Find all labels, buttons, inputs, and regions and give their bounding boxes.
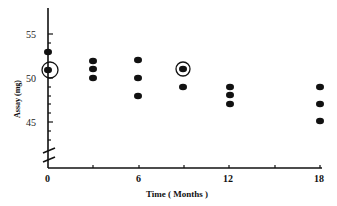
point-12-48 [226, 92, 234, 99]
scatter-chart: 55 50 45 0 6 12 18 Time ( Months ) Assay… [0, 0, 337, 206]
point-18-49 [316, 84, 324, 91]
y-axis-title: Assay (mg) [13, 80, 22, 118]
point-18-45 [316, 118, 324, 125]
x-tick-label-0: 0 [45, 173, 50, 184]
point-18-47 [316, 101, 324, 108]
y-tick-label-50: 50 [26, 73, 36, 84]
point-0-51 [44, 67, 52, 74]
point-9-51 [179, 66, 187, 73]
x-axis-title: Time ( Months ) [146, 189, 208, 199]
point-3-50 [89, 75, 97, 82]
y-tick-label-45: 45 [26, 117, 36, 128]
point-6-52 [134, 57, 142, 64]
axis-break-icon [43, 148, 55, 162]
x-tick-label-6: 6 [136, 173, 141, 184]
point-6-50 [134, 75, 142, 82]
point-3-51 [89, 66, 97, 73]
point-9-49 [179, 84, 187, 91]
x-tick-label-18: 18 [314, 173, 324, 184]
point-6-48 [134, 93, 142, 100]
point-12-49 [226, 84, 234, 91]
point-0-53 [44, 49, 52, 56]
y-tick-label-55: 55 [26, 29, 36, 40]
point-3-52 [89, 58, 97, 65]
x-tick-label-12: 12 [223, 173, 233, 184]
data-points [44, 49, 324, 125]
point-12-47 [226, 101, 234, 108]
